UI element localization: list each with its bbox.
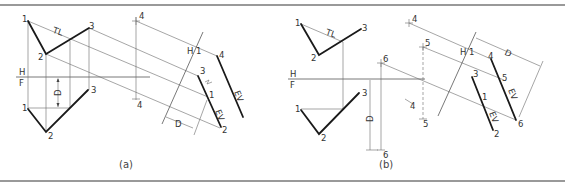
aux-point-4: 4 bbox=[219, 50, 224, 60]
aux-point-3: 3 bbox=[200, 66, 205, 76]
front-point-4: 4 bbox=[137, 100, 142, 110]
top-point-4: 4 bbox=[412, 14, 417, 24]
top-point-3: 3 bbox=[89, 21, 94, 31]
arrow-icon bbox=[57, 78, 60, 82]
caption-b: (b) bbox=[379, 159, 393, 170]
aux-projector-3 bbox=[89, 28, 198, 76]
aux-depth-label: D bbox=[503, 47, 513, 59]
front-point-1: 1 bbox=[22, 103, 27, 113]
aux-fold-label-h: H bbox=[187, 46, 193, 56]
dimension-extension bbox=[519, 61, 543, 117]
true-length-label: TL bbox=[324, 27, 338, 40]
front-point-4: 4 bbox=[410, 101, 415, 111]
top-point-3: 3 bbox=[362, 23, 367, 33]
fold-label-f: F bbox=[19, 78, 24, 88]
aux-point-4: 4 bbox=[488, 51, 493, 61]
front-point-3: 3 bbox=[362, 88, 367, 98]
top-point-4: 4 bbox=[139, 11, 144, 21]
caption-a: (a) bbox=[119, 159, 133, 170]
fold-label-h: H bbox=[290, 69, 296, 79]
front-point-5: 5 bbox=[423, 119, 428, 129]
panel-b: H F D 1 2 3 TL 4 5 6 4 5 6 bbox=[288, 14, 543, 170]
aux-point-1: 1 bbox=[209, 90, 214, 100]
aux-depth-label: D bbox=[175, 119, 182, 129]
aux-point-2: 2 bbox=[494, 129, 499, 139]
aux-fold-label-1: 1 bbox=[469, 47, 474, 57]
front-point-2: 2 bbox=[321, 133, 326, 143]
aux-fold-label-h: H bbox=[460, 47, 466, 57]
arrow-icon bbox=[57, 103, 60, 107]
top-point-6: 6 bbox=[383, 54, 388, 64]
break-mark-icon bbox=[205, 80, 212, 84]
edge-view-label-4: EV bbox=[232, 89, 246, 103]
panel-a: H F D 1 2 3 TL 4 4 1 2 3 bbox=[16, 11, 246, 170]
aux-projector-4 bbox=[136, 21, 217, 56]
aux-fold-line bbox=[438, 32, 476, 116]
aux-projector-4 bbox=[409, 23, 491, 59]
aux-point-2: 2 bbox=[222, 125, 227, 135]
aux-point-6: 6 bbox=[518, 119, 523, 129]
top-point-5: 5 bbox=[425, 38, 430, 48]
aux-projector-1 bbox=[301, 24, 343, 42]
top-point-2: 2 bbox=[38, 52, 43, 62]
front-point-3: 3 bbox=[91, 85, 96, 95]
fold-label-h: H bbox=[19, 67, 25, 77]
front-point-1: 1 bbox=[295, 104, 300, 114]
descriptive-geometry-figure: H F D 1 2 3 TL 4 4 1 2 3 bbox=[0, 0, 565, 186]
top-point-1: 1 bbox=[295, 18, 300, 28]
edge-view-plane bbox=[472, 77, 493, 130]
front-point-2: 2 bbox=[48, 131, 53, 141]
fold-label-f: F bbox=[290, 80, 295, 90]
depth-label: D bbox=[365, 115, 375, 122]
top-point-1: 1 bbox=[22, 14, 27, 24]
aux-point-3: 3 bbox=[473, 69, 478, 79]
aux-point-1: 1 bbox=[482, 92, 487, 102]
aux-fold-label-1: 1 bbox=[196, 46, 201, 56]
depth-label: D bbox=[53, 89, 63, 96]
edge-view-label: EV bbox=[213, 108, 227, 122]
front-view-shape bbox=[301, 93, 359, 134]
top-point-2: 2 bbox=[311, 53, 316, 63]
aux-point-5: 5 bbox=[502, 73, 507, 83]
